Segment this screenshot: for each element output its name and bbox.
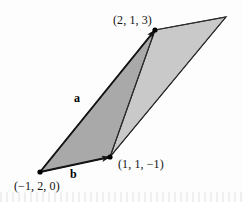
vector-a-label: a xyxy=(74,92,80,104)
point-label-origin: (−1, 2, 0) xyxy=(14,180,60,192)
scan-artifact-band xyxy=(0,192,243,202)
vector-figure: (2, 1, 3) (1, 1, −1) (−1, 2, 0) a b xyxy=(0,0,243,202)
point-label-top: (2, 1, 3) xyxy=(113,14,152,26)
vertex-a-tip-marker xyxy=(152,27,157,32)
point-label-right: (1, 1, −1) xyxy=(118,158,164,170)
vertex-b-tip-marker xyxy=(107,154,112,159)
vector-b-label: b xyxy=(70,168,77,180)
figure-canvas xyxy=(0,0,243,202)
vertex-origin-marker xyxy=(37,169,42,174)
